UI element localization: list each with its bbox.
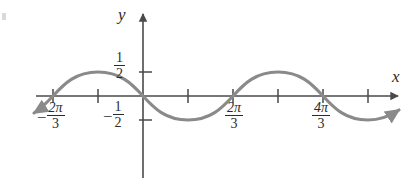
fraction-numerator: 4π — [312, 100, 330, 116]
fraction-denominator: 2 — [113, 115, 124, 130]
fraction-denominator: 2 — [114, 66, 125, 81]
fraction-two-pi-over-three: 2π3 — [47, 100, 65, 132]
fraction-numerator: 2π — [225, 100, 243, 116]
plot-canvas — [0, 0, 416, 189]
minus-sign: – — [104, 108, 113, 123]
x-axis-label: x — [392, 68, 400, 85]
y-tick-label-one-half: 12 — [114, 50, 125, 82]
sine-graph-figure: y x –2π3 2π3 4π3 12 –12 — [0, 0, 416, 189]
x-tick-label-two-pi-over-three: 2π3 — [225, 100, 243, 132]
fraction-numerator: 1 — [113, 99, 124, 115]
fraction-two-pi-over-three: 2π3 — [225, 100, 243, 132]
y-tick-label-negative-one-half: –12 — [104, 99, 124, 131]
fraction-one-half: 12 — [113, 99, 124, 131]
fraction-four-pi-over-three: 4π3 — [312, 100, 330, 132]
fraction-denominator: 3 — [312, 116, 330, 131]
minus-sign: – — [38, 109, 47, 124]
x-tick-label-four-pi-over-three: 4π3 — [312, 100, 330, 132]
fraction-numerator: 2π — [47, 100, 65, 116]
x-tick-label-neg-two-pi-over-three: –2π3 — [38, 100, 65, 132]
fraction-one-half: 12 — [114, 50, 125, 82]
y-axis-label: y — [118, 6, 126, 23]
fraction-numerator: 1 — [114, 50, 125, 66]
fraction-denominator: 3 — [225, 116, 243, 131]
fraction-denominator: 3 — [47, 116, 65, 131]
